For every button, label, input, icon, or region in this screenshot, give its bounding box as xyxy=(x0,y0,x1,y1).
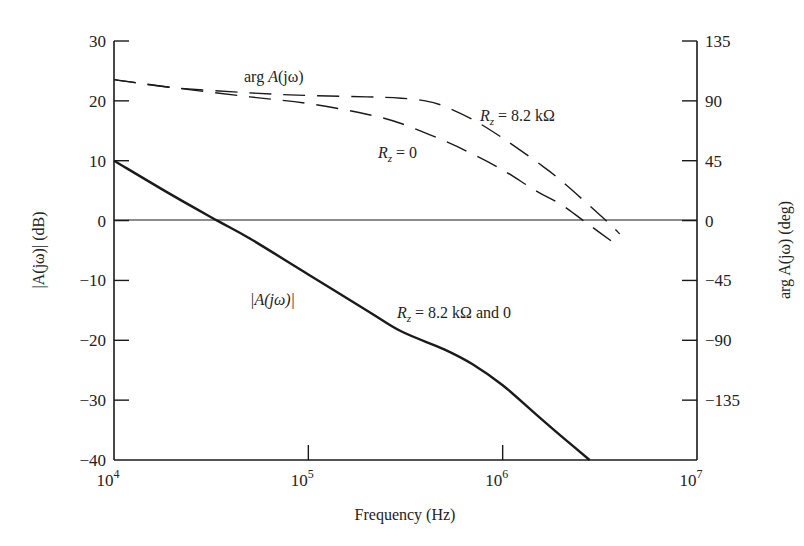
x-tick-label: 105 xyxy=(291,467,314,490)
y2-tick-label: −135 xyxy=(705,391,740,410)
annotation-rz-0: Rz = 0 xyxy=(377,144,417,164)
ticks xyxy=(114,41,697,460)
bode-plot: 3020100−10−20−30−4013590450−45−90−135104… xyxy=(0,0,804,546)
x-tick-label: 107 xyxy=(680,467,703,490)
axes xyxy=(114,41,697,460)
y2-tick-label: −90 xyxy=(705,331,732,350)
annotation-rz-both: Rz = 8.2 kΩ and 0 xyxy=(396,304,511,324)
y-tick-label: 10 xyxy=(89,152,106,171)
y2-tick-label: 90 xyxy=(705,92,722,111)
y-tick-label: −40 xyxy=(79,451,106,470)
tick-labels: 3020100−10−20−30−4013590450−45−90−135104… xyxy=(79,32,740,490)
annotation-arg-A: arg A(jω) xyxy=(244,68,304,86)
x-axis-title: Frequency (Hz) xyxy=(355,506,456,524)
y-tick-label: 30 xyxy=(89,32,106,51)
y2-tick-label: 0 xyxy=(705,212,714,231)
x-tick-label: 106 xyxy=(485,467,508,490)
y-tick-label: −30 xyxy=(79,391,106,410)
x-tick-label: 104 xyxy=(97,467,120,490)
annotation-magnitude: |A(jω)| xyxy=(250,291,295,309)
curves xyxy=(114,80,620,460)
y-tick-label: −10 xyxy=(79,271,106,290)
phase-curve-rz-8-2k xyxy=(114,80,620,234)
y-tick-label: 0 xyxy=(98,212,107,231)
y2-axis-title: arg A(jω) (deg) xyxy=(776,201,794,299)
phase-curve-rz-0 xyxy=(114,80,620,248)
y-axis-title: |A(jω)| (dB) xyxy=(30,212,48,289)
y-tick-label: −20 xyxy=(79,331,106,350)
y2-tick-label: 135 xyxy=(705,32,731,51)
magnitude-curve xyxy=(114,161,590,460)
y2-tick-label: 45 xyxy=(705,152,722,171)
annotation-rz-8-2k: Rz = 8.2 kΩ xyxy=(479,107,555,127)
y-tick-label: 20 xyxy=(89,92,106,111)
y2-tick-label: −45 xyxy=(705,271,732,290)
